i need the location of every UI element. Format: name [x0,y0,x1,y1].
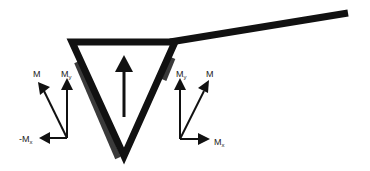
right-mx-label: M [214,137,222,147]
svg-text:My: My [176,69,187,80]
left-my-subscript: y [69,74,72,80]
right-vector-group: My M Mx [174,69,225,148]
right-my-subscript: y [184,74,187,80]
left-mx-label: -M [19,134,30,144]
right-mx-arrow-head-icon [198,133,210,145]
inclined-beam-line [170,13,348,42]
moment-diagram: M My -Mx My M Mx [0,0,370,171]
left-m-arrow [44,91,67,138]
left-m-label: M [33,69,41,79]
svg-text:Mx: Mx [214,137,225,148]
left-my-label: M [61,69,69,79]
right-mx-subscript: x [222,142,225,148]
internal-arrow-head-icon [115,55,133,72]
triangle-shadow [77,62,118,158]
left-mx-arrow-head-icon [39,132,50,144]
left-vector-group: M My -Mx [19,69,73,145]
right-my-label: M [176,69,184,79]
svg-text:-Mx: -Mx [19,134,33,145]
left-mx-subscript: x [30,139,33,145]
right-m-arrow [180,91,204,139]
svg-text:My: My [61,69,72,80]
right-m-label: M [206,69,214,79]
